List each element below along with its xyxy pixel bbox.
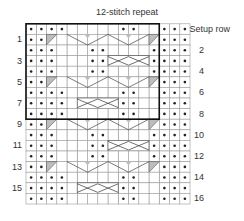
row-label: 4 xyxy=(199,66,204,76)
row-label: 11 xyxy=(13,141,22,151)
row-label: 13 xyxy=(12,162,22,172)
row-label: 5 xyxy=(17,77,22,87)
row-label: 8 xyxy=(199,109,204,119)
row-label: 1 xyxy=(17,35,22,45)
setup-row-label: Setup row xyxy=(189,24,230,34)
row-label: 10 xyxy=(194,130,204,140)
row-label: 12 xyxy=(194,151,204,161)
knitting-chart: 12-stitch repeat Setup row12345678910111… xyxy=(0,0,244,221)
row-label: 14 xyxy=(194,172,204,182)
row-label: 2 xyxy=(199,45,204,55)
row-label: 16 xyxy=(194,194,204,204)
row-label: 7 xyxy=(17,98,22,108)
row-label: 9 xyxy=(17,119,22,129)
row-label: 6 xyxy=(199,88,204,98)
row-label: 3 xyxy=(17,56,22,66)
row-label: 15 xyxy=(12,183,22,193)
